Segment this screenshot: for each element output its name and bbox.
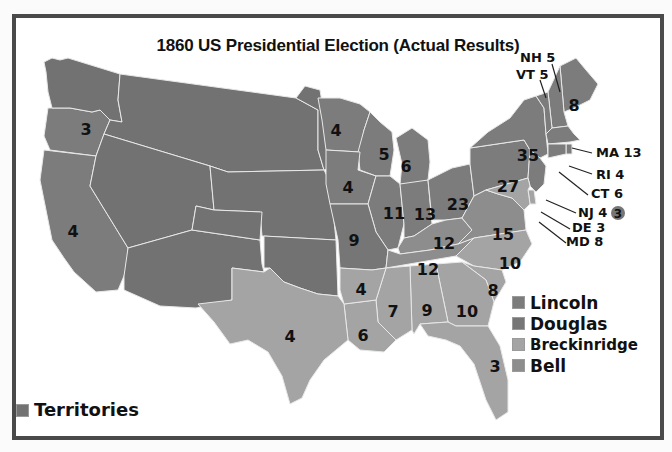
callout-label-de: DE 3 [572, 220, 605, 235]
callout-leader-line [539, 222, 566, 243]
electoral-votes-label: 6 [357, 326, 368, 345]
callout-label-nj: NJ 4 [578, 205, 607, 220]
electoral-votes-label: 13 [414, 205, 436, 224]
callout-label-nh: NH 5 [520, 50, 555, 65]
electoral-votes-label: 9 [348, 231, 359, 250]
callout-label-ma: MA 13 [596, 145, 642, 160]
electoral-votes-label: 9 [421, 301, 432, 320]
legend-label: Bell [530, 356, 566, 376]
electoral-votes-label: 35 [517, 146, 539, 165]
legend-label: Territories [34, 400, 139, 420]
electoral-votes-label: 7 [387, 302, 398, 321]
legend-label: Lincoln [530, 293, 598, 313]
electoral-votes-label: 4 [330, 121, 341, 140]
legend-label: Douglas [530, 314, 607, 334]
callout-leader-line [559, 172, 588, 195]
territory-swatch-icon [16, 404, 29, 417]
electoral-votes-label: 4 [67, 222, 78, 241]
electoral-votes-label: 12 [417, 260, 439, 279]
electoral-votes-label: 10 [499, 254, 521, 273]
bell-swatch-icon [512, 359, 525, 372]
legend-item-bell: Bell [512, 355, 638, 376]
callout-label-vt: VT 5 [516, 67, 549, 82]
electoral-votes-label: 3 [489, 357, 500, 376]
electoral-votes-label: 11 [383, 204, 405, 223]
electoral-votes-label: 4 [342, 178, 353, 197]
legend-item-lincoln: Lincoln [512, 292, 638, 313]
douglas-swatch-icon [512, 317, 525, 330]
legend: Lincoln Douglas Breckinridge Bell [512, 292, 638, 376]
callout-leader-line [546, 200, 576, 213]
callout-label-ct: CT 6 [591, 186, 623, 201]
breckinridge-swatch-icon [512, 338, 525, 351]
electoral-votes-label: 5 [378, 145, 389, 164]
electoral-votes-label: 4 [355, 280, 366, 299]
state-ri [566, 144, 572, 154]
lincoln-swatch-icon [512, 296, 525, 309]
state-ma [546, 126, 580, 144]
state-ct [548, 144, 566, 158]
legend-item-douglas: Douglas [512, 313, 638, 334]
electoral-votes-label: 8 [487, 281, 498, 300]
electoral-votes-label: 15 [492, 225, 514, 244]
callout-label-ri: RI 4 [596, 167, 624, 182]
electoral-votes-label: 23 [447, 195, 469, 214]
electoral-votes-label: 27 [497, 177, 519, 196]
callout-label-md: MD 8 [566, 234, 603, 249]
map-frame: 1860 US Presidential Election (Actual Re… [12, 14, 664, 440]
electoral-votes-label: 10 [456, 302, 478, 321]
callout-leader-line [569, 166, 592, 174]
nj-split-label: 3 [614, 207, 622, 221]
callout-leader-line [572, 148, 592, 153]
electoral-votes-label: 12 [433, 234, 455, 253]
legend-item-breckinridge: Breckinridge [512, 334, 638, 355]
electoral-votes-label: 3 [80, 120, 91, 139]
electoral-votes-label: 4 [284, 327, 295, 346]
electoral-votes-label: 6 [400, 157, 411, 176]
legend-label: Breckinridge [530, 335, 638, 355]
electoral-votes-label: 8 [568, 96, 579, 115]
legend-item-territories: Territories [16, 400, 139, 420]
